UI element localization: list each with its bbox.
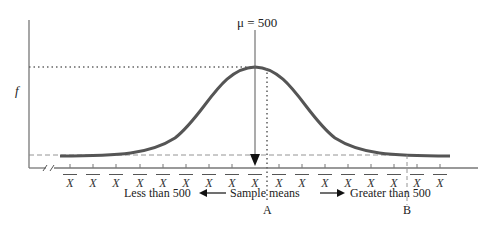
marker-b-label: B — [403, 204, 411, 216]
caption-less: Less than 500 — [124, 187, 191, 199]
tick-label: X — [202, 174, 216, 189]
tick-label: X — [63, 174, 77, 189]
mean-label: μ = 500 — [237, 16, 277, 29]
y-axis-label: f — [15, 84, 19, 97]
tick-label: X — [318, 174, 332, 189]
tick-label: X — [86, 174, 100, 189]
tick-label: X — [433, 174, 447, 189]
arrow-right-icon — [337, 189, 345, 197]
tick-label: X — [109, 174, 123, 189]
caption-greater: Greater than 500 — [350, 187, 431, 199]
marker-a-label: A — [263, 204, 272, 216]
arrow-down-icon — [250, 154, 260, 166]
caption-sample-means: Sample means — [230, 187, 300, 199]
arrow-left-icon — [199, 189, 207, 197]
